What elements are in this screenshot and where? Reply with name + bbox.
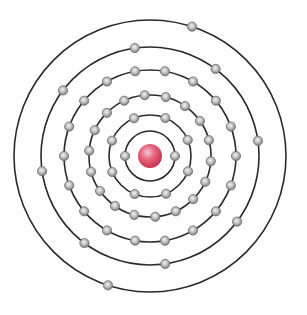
electron [232,217,241,226]
electron [253,136,262,145]
electron [140,91,149,100]
electron [86,167,95,176]
electron [226,122,235,131]
electron [102,226,111,235]
electron [188,77,197,86]
nucleus [138,144,162,168]
electron [102,77,111,86]
electron [129,114,138,123]
electron [107,136,116,145]
electron [151,212,160,221]
electron [108,167,117,176]
electron [120,151,129,160]
electron [231,151,240,160]
electron [183,167,192,176]
electron [120,96,129,105]
bohr-atom-diagram [0,0,307,315]
electron [65,181,74,190]
electron [187,22,196,31]
electron [204,136,213,145]
electron [183,135,192,144]
electron [160,67,169,76]
electron [161,113,170,122]
electron [195,116,204,125]
electron [160,236,169,245]
electron [180,101,189,110]
electron [130,210,139,219]
electron [189,195,198,204]
electron [37,167,46,176]
electron [80,96,89,105]
electron [130,67,139,76]
electron [211,96,220,105]
electron [102,108,111,117]
electron [59,151,68,160]
electron [201,177,210,186]
electron [171,207,180,216]
electron [161,259,170,268]
electron [211,64,220,73]
electron [58,86,67,95]
electron [206,157,215,166]
electron [85,146,94,155]
electron [130,43,139,52]
electron [103,281,112,290]
electron [161,189,170,198]
electron [130,236,139,245]
electron [188,226,197,235]
electron [226,181,235,190]
electron [211,207,220,216]
electron [130,189,139,198]
electron [95,186,104,195]
electron [161,92,170,101]
electron [80,207,89,216]
electron [65,122,74,131]
electron [80,238,89,247]
electron [90,126,99,135]
electron [170,151,179,160]
electron [110,201,119,210]
